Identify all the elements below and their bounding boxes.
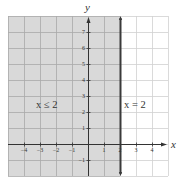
x-axis-label: x bbox=[170, 138, 176, 150]
x-tick-label: −1 bbox=[69, 147, 75, 153]
inequality-graph: −4−3−2−112347654321−1 x y x ≤ 2 x = 2 bbox=[0, 0, 184, 185]
x-tick-label: −4 bbox=[21, 147, 27, 153]
y-tick-label: −1 bbox=[79, 157, 85, 163]
y-tick-label: 1 bbox=[82, 125, 85, 131]
y-tick-label: 5 bbox=[82, 61, 85, 67]
y-tick-label: 7 bbox=[82, 29, 85, 35]
y-tick-label: 3 bbox=[82, 93, 85, 99]
boundary-label: x = 2 bbox=[124, 99, 146, 110]
region-label: x ≤ 2 bbox=[36, 99, 58, 110]
x-tick-label: −3 bbox=[37, 147, 43, 153]
x-tick-label: −2 bbox=[53, 147, 59, 153]
x-tick-label: 4 bbox=[151, 147, 154, 153]
y-axis-label: y bbox=[84, 1, 90, 13]
y-tick-label: 2 bbox=[82, 109, 85, 115]
x-tick-label: 1 bbox=[103, 147, 106, 153]
y-tick-label: 4 bbox=[82, 77, 85, 83]
y-tick-label: 6 bbox=[82, 45, 85, 51]
x-tick-label: 3 bbox=[135, 147, 138, 153]
x-axis-arrow-icon bbox=[161, 143, 167, 147]
x-tick-label: 2 bbox=[119, 147, 122, 153]
